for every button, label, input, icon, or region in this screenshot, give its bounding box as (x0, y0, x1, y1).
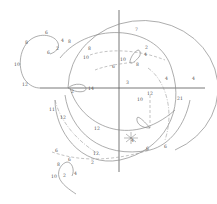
curve-label: 2 (71, 89, 74, 94)
curve-label: 4 (144, 52, 147, 57)
curve-label: 10 (137, 97, 143, 102)
curve-label: 6 (55, 148, 58, 153)
curve-label: 12 (22, 82, 28, 87)
lower-loop-curve (59, 162, 76, 194)
curve-label: 12 (93, 151, 99, 156)
curve-label: 10 (51, 174, 57, 179)
curve-label: 21 (177, 96, 183, 101)
orbit-diagram: 6810124268810142724810634412211011121212… (0, 0, 217, 204)
curve-label: 3 (126, 80, 129, 85)
dashed-upper-curve (90, 51, 165, 60)
curve-label: 6 (45, 30, 48, 35)
curve-label: 14 (88, 86, 94, 91)
lower-arc-curve (65, 95, 190, 152)
curve-label: 6 (146, 146, 149, 151)
curve-label: 2 (63, 173, 66, 178)
curve-label: 4 (74, 171, 77, 176)
curve-label: 12 (94, 126, 100, 131)
curve-label: 8 (136, 62, 139, 67)
curve-label: 6 (112, 64, 115, 69)
inner-arc-curve (70, 88, 175, 130)
dashed-lower-curve (52, 150, 150, 159)
curve-label: 2 (56, 46, 59, 51)
curve-label: 10 (120, 57, 126, 62)
curve-label: 10 (83, 55, 89, 60)
curve-label: 6 (47, 50, 50, 55)
curve-label: 10 (14, 62, 20, 67)
curve-label: 11 (49, 107, 55, 112)
curve-label: 6 (164, 144, 167, 149)
curve-label: 4 (165, 76, 168, 81)
curve-label: 4 (61, 38, 64, 43)
curve-label: 12 (60, 115, 66, 120)
curve-label: 8 (88, 46, 91, 51)
curve-label: 6 (68, 157, 71, 162)
curve-label: 4 (131, 138, 134, 143)
curve-label: 12 (147, 91, 153, 96)
curve-label: 2 (91, 160, 94, 165)
curve-label: 2 (145, 45, 148, 50)
curve-label: 8 (25, 40, 28, 45)
dashed-center-curve (95, 62, 135, 70)
curve-label: 8 (68, 39, 71, 44)
curve-label: 8 (57, 162, 60, 167)
curve-label: 4 (192, 76, 195, 81)
curve-label: 7 (135, 27, 138, 32)
